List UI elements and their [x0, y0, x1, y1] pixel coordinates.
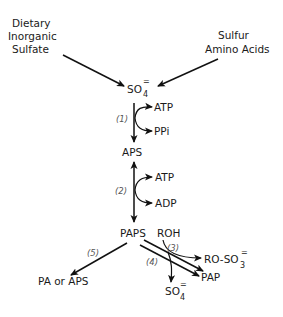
sulfate-node-bottom: SO 4 = [165, 280, 187, 302]
pa-or-aps-node: PA or APS [38, 275, 89, 287]
source-line-2: Inorganic [8, 30, 57, 42]
ro-so3-base: RO-SO [204, 253, 239, 265]
step2-atp-curve [135, 177, 152, 190]
step2-atp-label: ATP [155, 171, 174, 183]
amino-line-2: Amino Acids [205, 43, 270, 55]
ro-so3-sup: = [241, 248, 248, 257]
step2-adp-curve [135, 190, 152, 203]
step1-atp-curve [135, 107, 152, 118]
sulfate-base: SO [127, 83, 142, 95]
step1-label: (1) [116, 114, 128, 124]
roh-node: ROH [157, 227, 180, 239]
sulfur-amino-acids-label: Sulfur Amino Acids [205, 29, 270, 55]
dietary-to-sulfate-arrow [63, 55, 124, 86]
aps-node: APS [122, 146, 143, 158]
step2-adp-label: ADP [155, 197, 177, 209]
step3-label: (3) [167, 243, 179, 253]
sulfate-bottom-sup: = [180, 280, 187, 289]
dietary-inorganic-sulfate-label: Dietary Inorganic Sulfate [8, 17, 57, 55]
source-line-1: Dietary [12, 17, 51, 29]
step1-atp-label: ATP [154, 101, 173, 113]
step4-label: (4) [146, 257, 158, 267]
sulfate-bottom-sub: 4 [180, 293, 185, 302]
ro-so3-node: RO-SO 3 = [204, 248, 248, 270]
sulfate-metabolism-diagram: Dietary Inorganic Sulfate Sulfur Amino A… [0, 0, 283, 317]
step2-label: (2) [115, 186, 127, 196]
sulfate-node-top: SO 4 = [127, 77, 150, 99]
source-line-3: Sulfate [12, 43, 49, 55]
amino-line-1: Sulfur [218, 29, 250, 41]
paps-node: PAPS [120, 227, 146, 239]
step5-label: (5) [87, 248, 99, 258]
step1-ppi-curve [135, 118, 152, 131]
step1-ppi-label: PPi [154, 125, 169, 137]
step4-curve [168, 252, 172, 282]
sulfate-bottom-base: SO [165, 285, 180, 297]
ro-so3-sub: 3 [240, 261, 245, 270]
sulfate-sub: 4 [143, 90, 148, 99]
pap-node: PAP [201, 271, 220, 283]
amino-to-sulfate-arrow [158, 59, 218, 86]
sulfate-sup: = [143, 77, 150, 86]
